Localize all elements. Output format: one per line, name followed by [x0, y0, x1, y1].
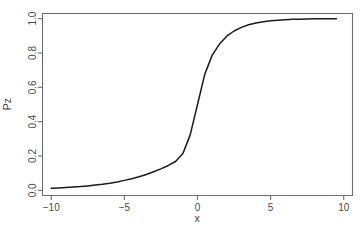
y-tick-label: 0.6: [27, 80, 38, 94]
y-tick-label: 0.2: [27, 149, 38, 163]
x-axis-title: x: [194, 212, 200, 224]
y-tick-label: 0.8: [27, 46, 38, 60]
x-tick-label: −10: [43, 202, 60, 213]
x-tick-label: 5: [268, 202, 274, 213]
y-tick-label: 1.0: [27, 11, 38, 25]
x-tick-label: 0: [195, 202, 201, 213]
y-tick-label: 0.4: [27, 114, 38, 128]
logistic-curve-plot: −10−50510 0.00.20.40.60.81.0 x Pz: [0, 0, 362, 233]
x-tick-label: 10: [338, 202, 350, 213]
x-tick-label: −5: [119, 202, 131, 213]
y-axis-title: Pz: [1, 98, 13, 110]
plot-background: [0, 0, 362, 233]
chart-figure: −10−50510 0.00.20.40.60.81.0 x Pz: [0, 0, 362, 233]
y-tick-label: 0.0: [27, 183, 38, 197]
